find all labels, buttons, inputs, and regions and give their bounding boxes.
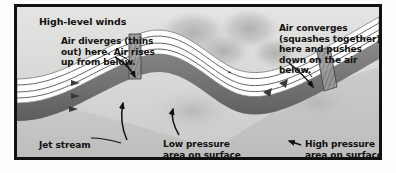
- illustration-frame: High-level winds Air diverges (thins out…: [14, 4, 382, 160]
- jet-stream-diagram: High-level winds Air diverges (thins out…: [0, 0, 396, 173]
- divergence-callout: Air diverges (thins out) here. Air rises…: [61, 36, 155, 68]
- low-pressure-label: Low pressure area on surface: [163, 139, 241, 160]
- high-pressure-label: High pressure area on surface: [305, 139, 382, 160]
- page-title: High-level winds: [39, 17, 126, 28]
- convergence-callout: Air converges (squashes together) here a…: [279, 23, 380, 76]
- jet-stream-label: Jet stream: [39, 140, 91, 151]
